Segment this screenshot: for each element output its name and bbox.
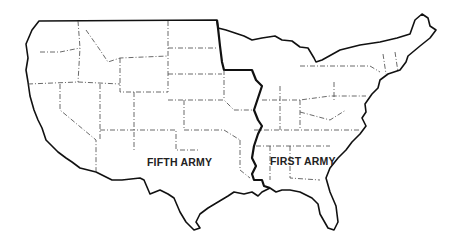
state-boundaries [28, 21, 398, 180]
fifth-army-label: FIFTH ARMY [147, 156, 212, 168]
us-outline [26, 14, 436, 230]
army-boundary-line [217, 20, 270, 188]
first-army-label: FIRST ARMY [270, 155, 336, 167]
map-canvas [0, 0, 451, 249]
